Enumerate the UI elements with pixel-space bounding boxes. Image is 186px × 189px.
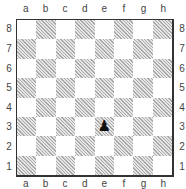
square-c8[interactable] — [56, 20, 75, 39]
chess-board: ♟ — [16, 19, 174, 177]
square-a1[interactable] — [17, 156, 36, 175]
black-pawn-icon[interactable]: ♟ — [97, 119, 110, 134]
rank-label: 1 — [176, 156, 186, 176]
square-h8[interactable] — [153, 20, 172, 39]
square-f1[interactable] — [114, 156, 133, 175]
rank-label: 4 — [3, 98, 15, 118]
square-f3[interactable] — [114, 117, 133, 136]
square-c5[interactable] — [56, 78, 75, 97]
rank-label: 7 — [176, 39, 186, 59]
file-label: f — [114, 2, 134, 16]
rank-labels-left: 8 7 6 5 4 3 2 1 — [3, 19, 15, 176]
square-h6[interactable] — [153, 59, 172, 78]
square-f8[interactable] — [114, 20, 133, 39]
file-label: f — [114, 177, 134, 189]
file-label: g — [134, 177, 154, 189]
square-h5[interactable] — [153, 78, 172, 97]
file-label: d — [75, 177, 95, 189]
square-b7[interactable] — [36, 39, 55, 58]
file-labels-bottom: a b c d e f g h — [16, 177, 173, 189]
square-d1[interactable] — [75, 156, 94, 175]
rank-label: 4 — [176, 98, 186, 118]
rank-label: 3 — [176, 117, 186, 137]
file-label: d — [75, 2, 95, 16]
file-labels-top: a b c d e f g h — [16, 2, 173, 16]
square-c4[interactable] — [56, 98, 75, 117]
file-label: a — [16, 2, 36, 16]
square-e8[interactable] — [95, 20, 114, 39]
square-d5[interactable] — [75, 78, 94, 97]
rank-label: 3 — [3, 117, 15, 137]
square-d8[interactable] — [75, 20, 94, 39]
square-g4[interactable] — [133, 98, 152, 117]
square-a3[interactable] — [17, 117, 36, 136]
square-g6[interactable] — [133, 59, 152, 78]
file-label: g — [134, 2, 154, 16]
rank-label: 1 — [3, 156, 15, 176]
square-b4[interactable] — [36, 98, 55, 117]
square-h1[interactable] — [153, 156, 172, 175]
square-e7[interactable] — [95, 39, 114, 58]
square-f2[interactable] — [114, 136, 133, 155]
square-e1[interactable] — [95, 156, 114, 175]
square-d3[interactable] — [75, 117, 94, 136]
square-f5[interactable] — [114, 78, 133, 97]
rank-label: 2 — [3, 137, 15, 157]
square-b3[interactable] — [36, 117, 55, 136]
square-a2[interactable] — [17, 136, 36, 155]
square-f7[interactable] — [114, 39, 133, 58]
rank-label: 2 — [176, 137, 186, 157]
rank-label: 8 — [3, 19, 15, 39]
square-d7[interactable] — [75, 39, 94, 58]
square-a8[interactable] — [17, 20, 36, 39]
rank-label: 6 — [3, 58, 15, 78]
square-f6[interactable] — [114, 59, 133, 78]
file-label: e — [95, 2, 115, 16]
square-g7[interactable] — [133, 39, 152, 58]
rank-labels-right: 8 7 6 5 4 3 2 1 — [176, 19, 186, 176]
file-label: c — [55, 2, 75, 16]
square-d6[interactable] — [75, 59, 94, 78]
square-e5[interactable] — [95, 78, 114, 97]
square-f4[interactable] — [114, 98, 133, 117]
square-a5[interactable] — [17, 78, 36, 97]
square-b5[interactable] — [36, 78, 55, 97]
square-b8[interactable] — [36, 20, 55, 39]
square-a7[interactable] — [17, 39, 36, 58]
square-e4[interactable] — [95, 98, 114, 117]
square-e6[interactable] — [95, 59, 114, 78]
square-g2[interactable] — [133, 136, 152, 155]
file-label: h — [153, 2, 173, 16]
file-label: e — [95, 177, 115, 189]
square-c6[interactable] — [56, 59, 75, 78]
file-label: c — [55, 177, 75, 189]
square-h2[interactable] — [153, 136, 172, 155]
square-h4[interactable] — [153, 98, 172, 117]
file-label: h — [153, 177, 173, 189]
file-label: a — [16, 177, 36, 189]
square-g3[interactable] — [133, 117, 152, 136]
square-a4[interactable] — [17, 98, 36, 117]
square-d4[interactable] — [75, 98, 94, 117]
square-e3[interactable]: ♟ — [95, 117, 114, 136]
square-b2[interactable] — [36, 136, 55, 155]
rank-label: 5 — [3, 78, 15, 98]
square-e2[interactable] — [95, 136, 114, 155]
square-a6[interactable] — [17, 59, 36, 78]
square-g1[interactable] — [133, 156, 152, 175]
square-d2[interactable] — [75, 136, 94, 155]
square-b1[interactable] — [36, 156, 55, 175]
square-c3[interactable] — [56, 117, 75, 136]
square-h3[interactable] — [153, 117, 172, 136]
square-c1[interactable] — [56, 156, 75, 175]
square-c2[interactable] — [56, 136, 75, 155]
square-h7[interactable] — [153, 39, 172, 58]
square-b6[interactable] — [36, 59, 55, 78]
square-g8[interactable] — [133, 20, 152, 39]
rank-label: 8 — [176, 19, 186, 39]
square-g5[interactable] — [133, 78, 152, 97]
rank-label: 7 — [3, 39, 15, 59]
rank-label: 6 — [176, 58, 186, 78]
rank-label: 5 — [176, 78, 186, 98]
square-c7[interactable] — [56, 39, 75, 58]
